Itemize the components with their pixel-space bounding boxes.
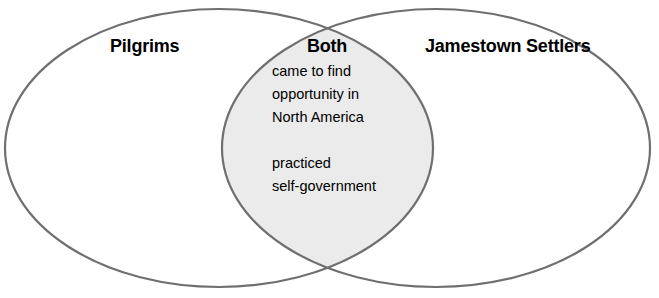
intersection-fill-region [222, 9, 650, 287]
venn-shapes [0, 0, 659, 298]
venn-diagram: Pilgrims Both Jamestown Settlers came to… [0, 0, 659, 298]
intersection-shaded-lens [222, 9, 650, 287]
